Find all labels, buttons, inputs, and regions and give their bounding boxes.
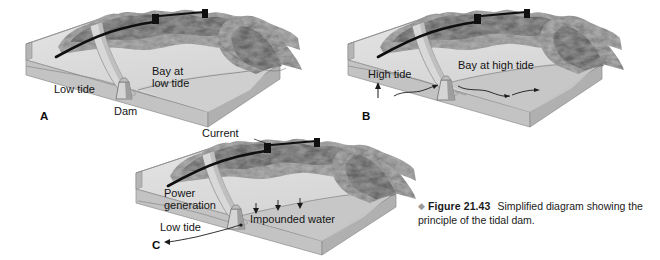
- panel-c-power-generation: Current Power generation Impounded water…: [128, 125, 438, 257]
- figure-caption: ◆Figure 21.43Simplified diagram showing …: [418, 200, 650, 227]
- block-left-face: [26, 42, 32, 60]
- bridge-pier-left: [474, 14, 481, 24]
- caption-figure-number: Figure 21.43: [428, 200, 490, 212]
- panel-c-illustration: Current Power generation Impounded water…: [128, 125, 438, 257]
- panel-letter-b: B: [362, 110, 370, 122]
- panel-letter-c: C: [152, 239, 160, 251]
- outflow-arrow-origin-dot: [239, 223, 242, 226]
- label-high-tide: High tide: [368, 68, 411, 80]
- bridge-pier-right: [314, 138, 320, 147]
- panel-a-illustration: Low tide Bay at low tide Dam A: [18, 2, 318, 130]
- panel-b-illustration: High tide Bay at high tide B: [340, 2, 640, 130]
- label-low-tide: Low tide: [160, 221, 201, 233]
- label-impounded-water: Impounded water: [250, 213, 335, 225]
- bridge-pier-right: [202, 9, 208, 18]
- panel-letter-a: A: [40, 110, 48, 122]
- figure-tidal-dam: Low tide Bay at low tide Dam A: [0, 0, 660, 260]
- panel-a-low-tide: Low tide Bay at low tide Dam A: [18, 2, 318, 130]
- block-left-face: [348, 42, 354, 60]
- label-dam: Dam: [114, 105, 137, 117]
- bridge-pier-left: [264, 143, 271, 153]
- caption-diamond-icon: ◆: [418, 201, 425, 211]
- label-bay-at-low-tide-line2: low tide: [152, 77, 189, 89]
- panel-b-high-tide: High tide Bay at high tide B: [340, 2, 640, 130]
- bridge-pier-left: [152, 14, 159, 24]
- caption-line-1: Simplified diagram: [497, 200, 583, 212]
- label-power-generation-line1: Power: [164, 187, 196, 199]
- label-low-tide: Low tide: [54, 83, 95, 95]
- label-bay-at-high-tide: Bay at high tide: [458, 59, 534, 71]
- label-bay-at-low-tide-line1: Bay at: [152, 65, 183, 77]
- bridge-pier-right: [524, 9, 530, 18]
- label-current: Current: [202, 127, 239, 139]
- label-power-generation-line2: generation: [164, 199, 216, 211]
- outflow-arrowhead: [164, 239, 170, 245]
- block-left-face: [136, 171, 142, 189]
